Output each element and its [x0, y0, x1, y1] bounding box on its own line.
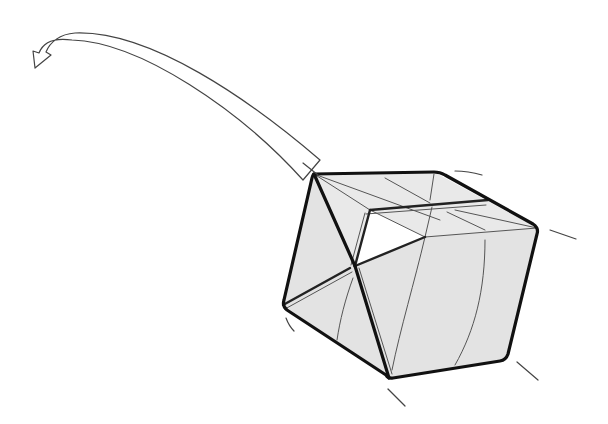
- origami-diagram: [0, 0, 608, 424]
- origami-cube: [283, 172, 538, 378]
- motion-arrow-icon: [33, 33, 320, 180]
